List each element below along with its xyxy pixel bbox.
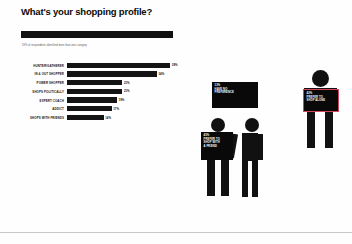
sign-line: PREFERENCE [215,91,256,95]
bar-row: EXPERT COACH19% [21,97,173,105]
bar-value-label: 19% [119,98,125,102]
bar-row: HUNTER/GATHERER39% [21,62,173,70]
companion-leg-right [252,161,258,197]
page-title-left: What's your shopping profile? [21,6,171,17]
bar-category-label: SHOPS WITH FRIENDS [21,116,67,120]
shopping-profile-bar-chart: HUNTER/GATHERER39%IN & OUT SHOPPER34%POW… [21,62,173,122]
sign-shop-alone: 42%PREFER TOSHOP ALONE [303,89,339,112]
bar-category-label: SHOPS POLITICALLY [21,90,67,94]
figure-leg-right [221,160,229,196]
bottom-divider [0,232,352,233]
bar-row: SHOPS WITH FRIENDS14% [21,114,173,122]
companion-torso [242,133,258,161]
alone-leg-left [307,112,315,148]
companion-arm [258,134,263,160]
bar-fill [67,106,112,111]
sign-shop-with-friend: 45%PREFER TOSHOP WITHA FRIEND [201,132,233,160]
sign-line: SHOP ALONE [307,99,336,103]
bar-track: 17% [67,105,174,113]
bar-category-label: POWER SHOPPER [21,81,67,85]
bar-category-label: HUNTER/GATHERER [21,64,67,68]
bar-value-label: 21% [124,89,130,93]
sign-line: A FRIEND [204,145,231,149]
bar-category-label: ADDICT [21,107,67,111]
bar-value-label: 17% [113,107,119,111]
bar-track: 21% [67,88,174,96]
pictogram-group: 13%HAVE NOPREFERENCE 45%PREFER TOSHOP WI… [176,56,352,244]
figure-leg-left [207,160,215,196]
bar-row: ADDICT17% [21,105,173,113]
bar-fill [67,80,123,85]
bar-track: 14% [67,114,174,122]
bar-row: SHOPS POLITICALLY21% [21,88,173,96]
infographic-page: What's your shopping profile? 59% of res… [0,0,352,244]
bar-track: 19% [67,97,174,105]
bar-value-label: 34% [159,72,165,76]
bar-fill [67,63,171,68]
bar-fill [67,71,158,76]
bar-track: 21% [67,79,174,87]
bar-row: POWER SHOPPER21% [21,79,173,87]
bar-fill [67,89,123,94]
bar-row: IN & OUT SHOPPER34% [21,71,173,79]
bar-fill [67,97,118,102]
bar-value-label: 14% [105,116,111,120]
bar-value-label: 21% [124,81,130,85]
bar-category-label: IN & OUT SHOPPER [21,72,67,76]
companion-head [245,118,259,132]
bar-category-label: EXPERT COACH [21,99,67,103]
panel-shopping-profile: What's your shopping profile? 59% of res… [0,0,176,244]
companion-leg-left [242,161,248,197]
bar-fill [67,115,104,120]
bar-track: 34% [67,71,174,79]
figure-head [211,118,225,132]
sign-no-preference: 13%HAVE NOPREFERENCE [212,82,258,108]
bar-track: 39% [67,62,174,70]
header-rule-left [21,31,173,38]
alone-head [312,70,329,87]
footnote-left: 59% of respondents identified more than … [22,44,172,48]
alone-leg-right [325,112,333,148]
